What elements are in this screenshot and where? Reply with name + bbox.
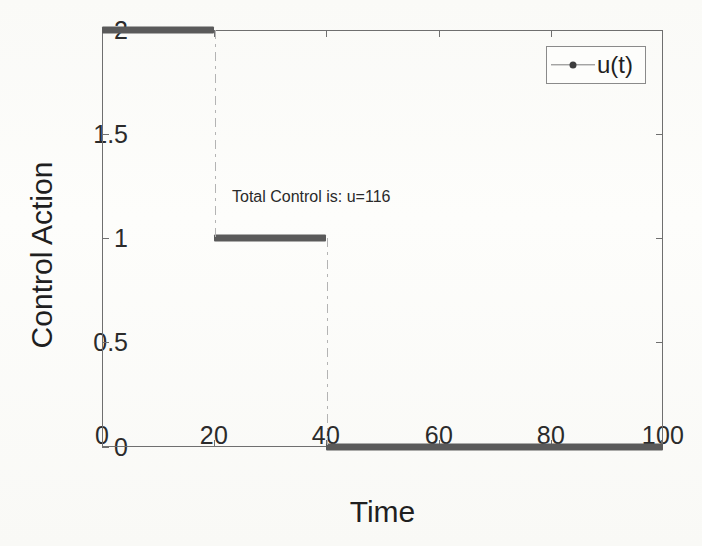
transition-line-t40 (326, 238, 328, 447)
legend-label-ut: u(t) (597, 53, 633, 77)
ytick-mark-0 (102, 447, 109, 448)
axes-border (102, 30, 663, 447)
ytick-mark-1.5 (102, 134, 109, 135)
plot-area (102, 30, 663, 447)
transition-line-t20 (214, 30, 216, 238)
series-segment-u1 (214, 235, 326, 242)
ytick-mark-right-1.5 (656, 134, 663, 135)
x-axis-title: Time (102, 495, 663, 529)
ytick-mark-0.5 (102, 342, 109, 343)
series-segment-u0 (326, 444, 663, 451)
series-segment-u2 (102, 27, 214, 34)
y-axis-title: Control Action (25, 105, 59, 405)
xtick-mark-top-40 (326, 30, 327, 37)
figure-canvas: 0 0.5 1 1.5 2 0 20 40 60 80 100 Time Con… (0, 0, 702, 546)
legend[interactable]: u(t) (546, 46, 646, 84)
ytick-mark-1 (102, 238, 109, 239)
xtick-mark-top-60 (439, 30, 440, 37)
total-control-annotation: Total Control is: u=116 (232, 188, 390, 206)
xtick-mark-top-80 (551, 30, 552, 37)
ytick-mark-right-1 (656, 238, 663, 239)
legend-marker-icon (551, 58, 595, 72)
xtick-mark-20 (214, 440, 215, 447)
ytick-mark-right-0.5 (656, 342, 663, 343)
xtick-mark-0 (102, 440, 103, 447)
